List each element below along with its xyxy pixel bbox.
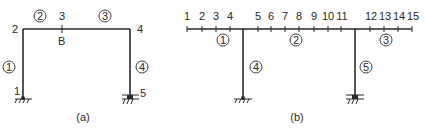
node-labels-b: 1 2 3 4 5 6 7 8 9 10 11 12 13 14 15 bbox=[184, 10, 419, 22]
fixed-support-icon bbox=[15, 96, 32, 103]
svg-text:4: 4 bbox=[253, 61, 259, 73]
svg-text:15: 15 bbox=[407, 10, 419, 22]
svg-text:4: 4 bbox=[139, 61, 145, 73]
caption-b: (b) bbox=[290, 111, 303, 123]
node-label: 4 bbox=[137, 23, 143, 35]
frame-b: 1 2 3 4 5 6 7 8 9 10 11 12 13 14 15 bbox=[184, 10, 419, 123]
frame-a: 2 3 4 1 5 B 1 2 3 4 (a) bbox=[3, 10, 148, 123]
fixed-support-icon bbox=[122, 95, 139, 104]
svg-text:6: 6 bbox=[268, 10, 274, 22]
svg-text:1: 1 bbox=[220, 34, 226, 46]
fixed-support-icon bbox=[346, 95, 364, 104]
caption-a: (a) bbox=[76, 111, 89, 123]
svg-text:2: 2 bbox=[293, 34, 299, 46]
member-label: 3 bbox=[99, 10, 111, 22]
svg-text:14: 14 bbox=[393, 10, 405, 22]
member-label: 1 bbox=[217, 34, 229, 46]
svg-text:1: 1 bbox=[6, 61, 12, 73]
member-label: 2 bbox=[290, 34, 302, 46]
member-label: 3 bbox=[380, 34, 392, 46]
svg-text:3: 3 bbox=[213, 10, 219, 22]
svg-text:12: 12 bbox=[365, 10, 377, 22]
svg-text:5: 5 bbox=[363, 61, 369, 73]
node-label: 5 bbox=[140, 87, 146, 99]
node-label: 3 bbox=[59, 10, 65, 22]
member-label: 5 bbox=[360, 61, 372, 73]
member-label: 4 bbox=[136, 61, 148, 73]
svg-text:2: 2 bbox=[37, 10, 43, 22]
svg-text:11: 11 bbox=[336, 10, 347, 22]
member-label: 1 bbox=[3, 61, 15, 73]
svg-text:7: 7 bbox=[282, 10, 288, 22]
point-b-label: B bbox=[58, 35, 65, 47]
svg-text:8: 8 bbox=[296, 10, 302, 22]
svg-text:3: 3 bbox=[102, 10, 108, 22]
fixed-support-icon bbox=[234, 96, 252, 103]
svg-text:10: 10 bbox=[322, 10, 334, 22]
svg-text:5: 5 bbox=[255, 10, 261, 22]
member-label: 2 bbox=[34, 10, 46, 22]
member-label: 4 bbox=[250, 61, 262, 73]
svg-text:13: 13 bbox=[379, 10, 391, 22]
svg-text:2: 2 bbox=[199, 10, 205, 22]
svg-text:1: 1 bbox=[184, 10, 190, 22]
svg-text:3: 3 bbox=[383, 34, 389, 46]
svg-text:9: 9 bbox=[311, 10, 317, 22]
node-label: 1 bbox=[14, 85, 20, 97]
node-label: 2 bbox=[12, 23, 18, 35]
figure-canvas: 2 3 4 1 5 B 1 2 3 4 (a) bbox=[0, 0, 425, 131]
svg-text:4: 4 bbox=[227, 10, 233, 22]
